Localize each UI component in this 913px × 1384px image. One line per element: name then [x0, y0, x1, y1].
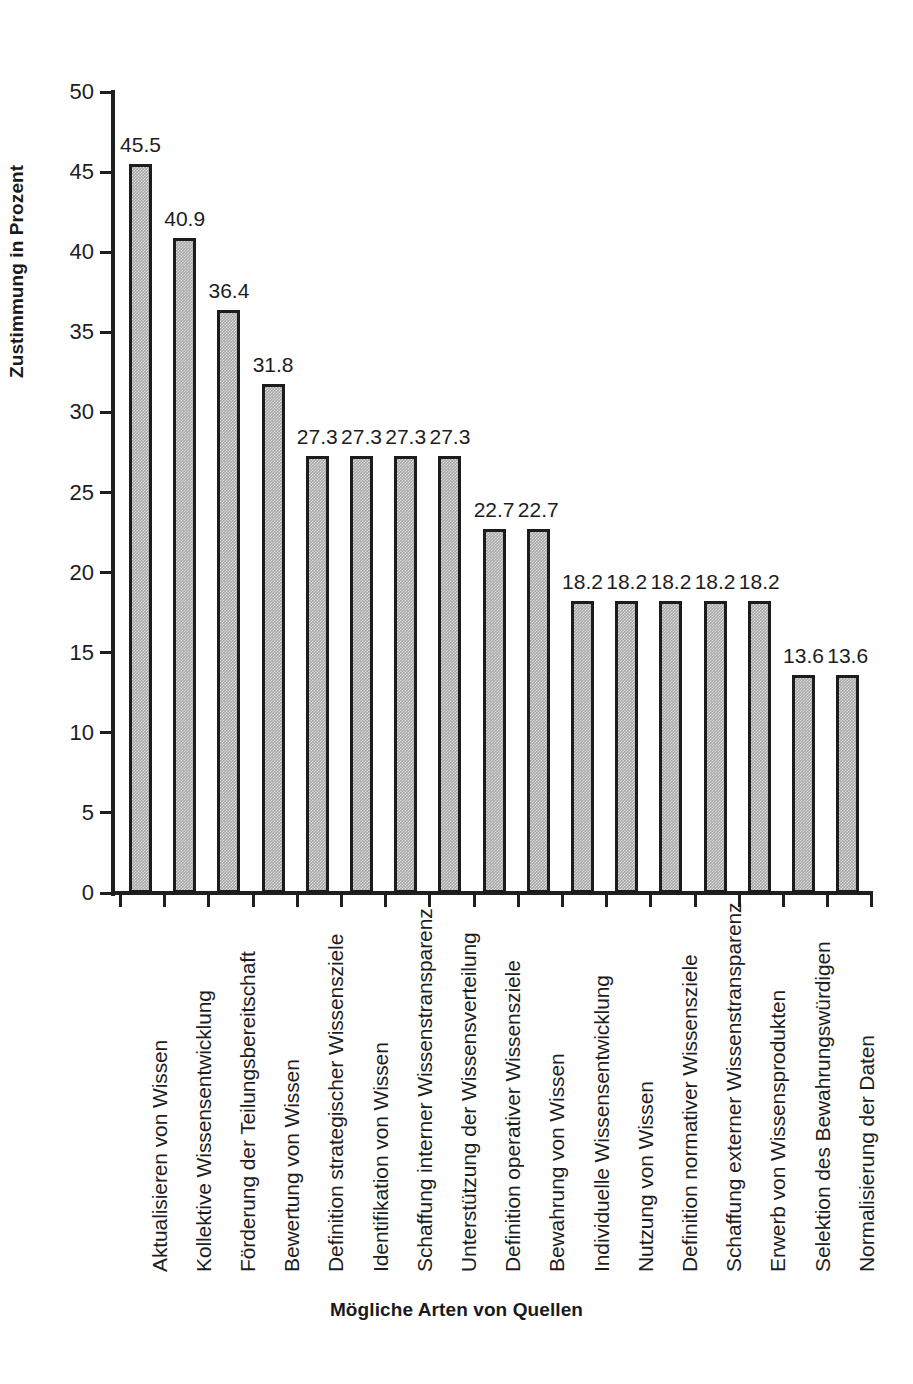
y-tick-mark: [100, 571, 113, 574]
bar-value-label: 18.2: [729, 571, 789, 592]
y-tick-mark: [100, 171, 113, 174]
x-tick-mark: [163, 894, 166, 907]
x-category-label: Schaffung interner Wissenstransparenz: [414, 908, 435, 1272]
x-tick-mark: [473, 894, 476, 907]
bar: [615, 601, 638, 893]
bar-value-label: 40.9: [155, 208, 215, 229]
x-tick-mark: [826, 894, 829, 907]
y-tick-mark: [100, 811, 113, 814]
x-category-label: Unterstützung der Wissensverteilung: [458, 932, 479, 1272]
x-category-label: Kollektive Wissensentwicklung: [193, 990, 214, 1272]
y-tick-mark: [100, 892, 113, 895]
x-category-label: Identifikation von Wissen: [370, 1042, 391, 1272]
bar: [704, 601, 727, 893]
bar: [438, 456, 461, 893]
x-tick-mark: [694, 894, 697, 907]
bar-value-label: 27.3: [420, 426, 480, 447]
y-axis-title: Zustimmung in Prozent: [6, 0, 28, 378]
x-tick-mark: [296, 894, 299, 907]
x-category-label: Selektion des Bewahrungswürdigen: [812, 941, 833, 1272]
x-category-label: Schaffung externer Wissenstransparenz: [723, 903, 744, 1272]
x-category-label: Aktualisieren von Wissen: [149, 1040, 170, 1272]
y-tick-mark: [100, 731, 113, 734]
y-tick-label: 5: [50, 802, 94, 824]
x-tick-mark: [428, 894, 431, 907]
y-tick-mark: [100, 651, 113, 654]
y-tick-mark: [100, 331, 113, 334]
bar: [748, 601, 771, 893]
x-category-label: Normalisierung der Daten: [856, 1035, 877, 1272]
x-category-label: Bewahrung von Wissen: [546, 1053, 567, 1272]
bar-value-label: 36.4: [199, 280, 259, 301]
bar: [394, 456, 417, 893]
y-tick-label: 30: [50, 401, 94, 423]
x-category-label: Nutzung von Wissen: [635, 1081, 656, 1272]
y-tick-label: 10: [50, 722, 94, 744]
bar: [262, 384, 285, 893]
x-tick-mark: [207, 894, 210, 907]
x-tick-mark: [384, 894, 387, 907]
bar-chart: Zustimmung in Prozent 504540353025201510…: [0, 0, 913, 1384]
y-tick-label: 0: [50, 882, 94, 904]
y-tick-label: 15: [50, 642, 94, 664]
y-tick-label: 40: [50, 241, 94, 263]
bar: [792, 675, 815, 893]
bar: [129, 164, 152, 893]
x-tick-mark: [782, 894, 785, 907]
x-category-label: Individuelle Wissensentwicklung: [591, 975, 612, 1272]
x-category-label: Definition operativer Wissensziele: [502, 960, 523, 1272]
y-tick-mark: [100, 491, 113, 494]
y-tick-mark: [100, 251, 113, 254]
x-tick-mark: [340, 894, 343, 907]
y-tick-label: 35: [50, 321, 94, 343]
y-tick-mark: [100, 91, 113, 94]
y-tick-mark: [100, 411, 113, 414]
bar: [659, 601, 682, 893]
x-category-label: Förderung der Teilungsbereitschaft: [237, 951, 258, 1272]
bar: [836, 675, 859, 893]
x-tick-mark: [119, 894, 122, 907]
bar: [173, 238, 196, 893]
x-tick-mark: [517, 894, 520, 907]
bar: [350, 456, 373, 893]
y-tick-label: 20: [50, 562, 94, 584]
y-tick-label: 50: [50, 81, 94, 103]
bar-value-label: 45.5: [111, 134, 171, 155]
x-category-label: Definition strategischer Wissensziele: [325, 934, 346, 1272]
y-tick-label: 25: [50, 482, 94, 504]
x-tick-mark: [252, 894, 255, 907]
x-tick-mark: [605, 894, 608, 907]
x-category-label: Erwerb von Wissensprodukten: [767, 990, 788, 1272]
x-axis-title: Mögliche Arten von Quellen: [0, 1299, 913, 1321]
bar-value-label: 31.8: [243, 354, 303, 375]
x-tick-mark: [649, 894, 652, 907]
x-category-label: Definition normativer Wissensziele: [679, 954, 700, 1272]
x-category-label: Bewertung von Wissen: [281, 1059, 302, 1272]
y-tick-label: 45: [50, 161, 94, 183]
bar: [483, 529, 506, 893]
bar: [571, 601, 594, 893]
x-tick-mark: [561, 894, 564, 907]
bar: [527, 529, 550, 893]
bar: [306, 456, 329, 893]
bar-value-label: 22.7: [508, 499, 568, 520]
x-tick-mark: [870, 894, 873, 907]
bar: [217, 310, 240, 893]
bar-value-label: 13.6: [818, 645, 878, 666]
